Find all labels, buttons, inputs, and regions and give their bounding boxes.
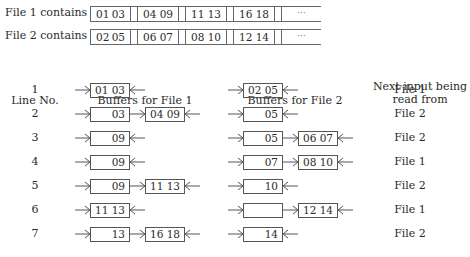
- next-input-file: File 1: [375, 155, 445, 168]
- buffer-key: 10: [320, 156, 333, 169]
- file2-output-arrow-icon: [338, 205, 353, 215]
- line-number: 1: [20, 83, 50, 96]
- buffer-key: 18: [167, 228, 180, 241]
- record-key: 14: [256, 30, 269, 44]
- file1-input-arrow-icon: [75, 157, 90, 167]
- next-input-file: File 2: [375, 131, 445, 144]
- record-key: 06: [143, 30, 156, 44]
- record-key: 16: [239, 7, 252, 21]
- buffer-key: 03: [112, 84, 125, 97]
- file2-link-arrow-icon: [283, 157, 298, 167]
- line-number: 2: [20, 107, 50, 120]
- file2-buffer: 0810: [298, 155, 338, 170]
- next-input-file: File 2: [375, 227, 445, 240]
- ellipsis: ···: [281, 30, 321, 44]
- file1-buffer: 1113: [90, 203, 130, 218]
- file1-buffer: 09: [90, 155, 130, 170]
- buffer-key: 12: [303, 204, 316, 217]
- record-key: 07: [160, 30, 173, 44]
- record-key: 12: [239, 30, 252, 44]
- buffer-key: 13: [112, 228, 125, 241]
- file2-output-arrow-icon: [338, 157, 353, 167]
- file2-buffer: 0205: [243, 83, 283, 98]
- file2-output-arrow-icon: [283, 109, 298, 119]
- record-key: 09: [160, 7, 173, 21]
- buffer-key: 07: [265, 156, 278, 169]
- buffer-key: 09: [167, 108, 180, 121]
- file2-input-arrow-icon: [228, 85, 243, 95]
- block-gap: [274, 30, 281, 44]
- file1-output-arrow-icon: [185, 229, 200, 239]
- file2-input-arrow-icon: [228, 109, 243, 119]
- file1-output-arrow-icon: [185, 109, 200, 119]
- file1-output-arrow-icon: [185, 181, 200, 191]
- file1-link-arrow-icon: [130, 109, 145, 119]
- file2-buffer: 05: [243, 107, 283, 122]
- file2-input-arrow-icon: [228, 229, 243, 239]
- buffer-key: 01: [95, 84, 108, 97]
- file2-buffer: 07: [243, 155, 283, 170]
- buffer-key: 09: [112, 180, 125, 193]
- record-key: 08: [191, 30, 204, 44]
- file2-link-arrow-icon: [283, 133, 298, 143]
- buffer-key: 03: [112, 108, 125, 121]
- file2-output-arrow-icon: [283, 85, 298, 95]
- record-key: 03: [112, 7, 125, 21]
- buffer-key: 11: [95, 204, 108, 217]
- record-key: 02: [96, 30, 109, 44]
- record-block: 0810: [185, 30, 226, 44]
- file2-input-arrow-icon: [228, 181, 243, 191]
- file2-output-arrow-icon: [283, 181, 298, 191]
- file1-input-arrow-icon: [75, 205, 90, 215]
- line-number: 7: [20, 227, 50, 240]
- file2-buffer: 05: [243, 131, 283, 146]
- file2-buffer: 1214: [298, 203, 338, 218]
- buffer-key: 13: [112, 204, 125, 217]
- next-input-file: File 1: [375, 83, 445, 96]
- buffer-key: 14: [265, 228, 278, 241]
- line-number: 3: [20, 131, 50, 144]
- file1-input-arrow-icon: [75, 133, 90, 143]
- file1-buffer: 1113: [145, 179, 185, 194]
- file2-input-arrow-icon: [228, 205, 243, 215]
- buffer-key: 09: [112, 132, 125, 145]
- file1-link-arrow-icon: [130, 229, 145, 239]
- record-key: 18: [256, 7, 269, 21]
- file2-link-arrow-icon: [283, 205, 298, 215]
- file1-input-arrow-icon: [75, 85, 90, 95]
- file1-output-arrow-icon: [130, 133, 145, 143]
- record-block: 0103: [90, 7, 130, 21]
- buffer-key: 05: [265, 108, 278, 121]
- next-input-file: File 2: [375, 179, 445, 192]
- record-key: 01: [96, 7, 109, 21]
- buffer-key: 05: [265, 84, 278, 97]
- record-block: 0409: [137, 7, 178, 21]
- buffer-key: 14: [320, 204, 333, 217]
- next-input-file: File 1: [375, 203, 445, 216]
- file2-buffer: 0607: [298, 131, 338, 146]
- file1-output-arrow-icon: [130, 157, 145, 167]
- file-1-label: File 1 contains: [5, 6, 87, 19]
- file1-buffer: 09: [90, 179, 130, 194]
- buffer-key: 07: [320, 132, 333, 145]
- record-key: 13: [208, 7, 221, 21]
- file1-buffer: 0103: [90, 83, 130, 98]
- file2-buffer: 14: [243, 227, 283, 242]
- buffer-key: 08: [303, 156, 316, 169]
- block-gap: [226, 30, 233, 44]
- block-gap: [226, 7, 233, 21]
- buffer-key: 10: [265, 180, 278, 193]
- file2-output-arrow-icon: [338, 133, 353, 143]
- file-1-records: 0103040911131618···: [90, 6, 321, 22]
- buffer-key: 04: [150, 108, 163, 121]
- record-block: 1618: [233, 7, 274, 21]
- file1-buffer: 13: [90, 227, 130, 242]
- file1-buffer: 03: [90, 107, 130, 122]
- file1-buffer: 0409: [145, 107, 185, 122]
- record-key: 04: [143, 7, 156, 21]
- line-number: 4: [20, 155, 50, 168]
- file1-buffer: 1618: [145, 227, 185, 242]
- file1-input-arrow-icon: [75, 229, 90, 239]
- record-key: 05: [112, 30, 125, 44]
- file1-link-arrow-icon: [130, 181, 145, 191]
